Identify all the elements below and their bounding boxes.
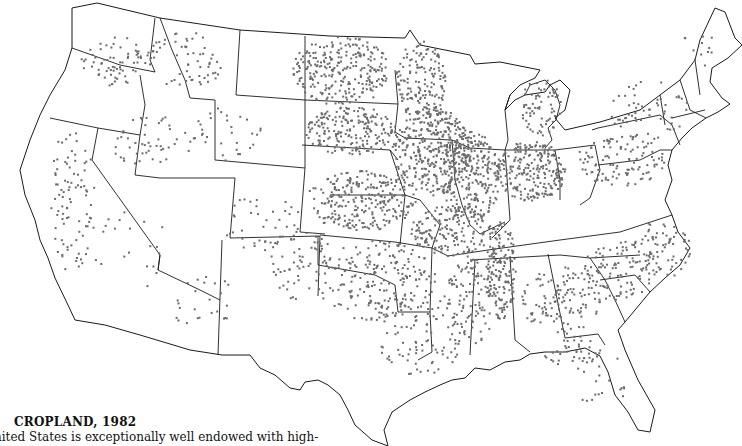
figure-caption: nited States is exceptionally well endow… [0, 430, 318, 444]
cropland-dots [50, 32, 712, 402]
figure-title: CROPLAND, 1982 [14, 415, 136, 429]
great-lakes-outline [505, 80, 560, 150]
document-page: CROPLAND, 1982 nited States is exception… [0, 0, 742, 446]
us-cropland-dot-map [0, 0, 742, 446]
